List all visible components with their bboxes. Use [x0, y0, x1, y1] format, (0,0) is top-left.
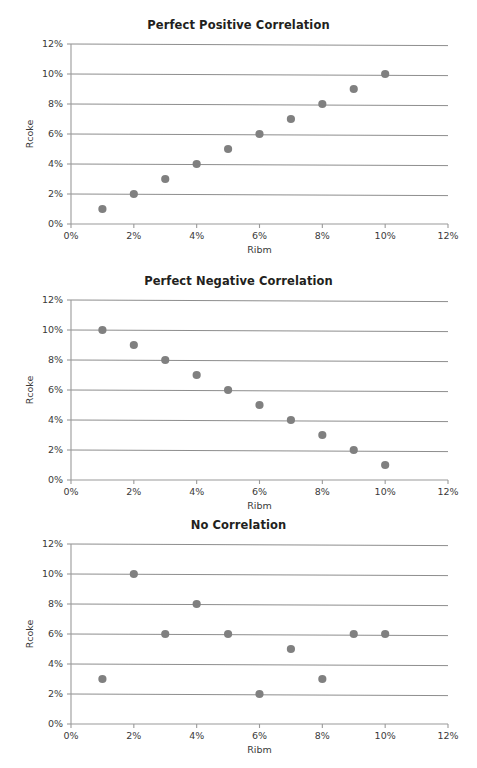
x-tick-label: 2% [126, 230, 141, 241]
y-tick-label: 6% [48, 628, 63, 639]
data-point [161, 175, 169, 183]
y-tick-label: 2% [48, 188, 63, 199]
data-point [287, 416, 295, 424]
y-axis-title: Rcoke [24, 120, 35, 149]
y-axis-title: Rcoke [24, 376, 35, 405]
data-point [130, 190, 138, 198]
data-point [318, 100, 326, 108]
x-tick-label: 12% [437, 230, 458, 241]
data-point [255, 130, 263, 138]
plot-svg: 0%2%4%6%8%10%12%0%2%4%6%8%10%12%RibmRcok… [0, 256, 477, 512]
y-tick-label: 6% [48, 384, 63, 395]
x-tick-label: 4% [189, 730, 204, 741]
x-tick-label: 12% [437, 730, 458, 741]
data-point [130, 570, 138, 578]
gridline-horizontal [71, 300, 448, 302]
y-tick-label: 2% [48, 444, 63, 455]
gridline-horizontal [71, 634, 448, 636]
y-tick-label: 4% [48, 158, 63, 169]
data-point [287, 115, 295, 123]
y-tick-label: 10% [42, 68, 63, 79]
data-point [193, 600, 201, 608]
y-tick-label: 6% [48, 128, 63, 139]
data-point [130, 341, 138, 349]
gridline-horizontal [71, 390, 448, 392]
y-tick-label: 0% [48, 718, 63, 729]
data-point [287, 645, 295, 653]
gridline-horizontal [71, 360, 448, 362]
gridline-horizontal [71, 194, 448, 196]
scatter-chart-perfect-negative: Perfect Negative Correlation 0%2%4%6%8%1… [0, 256, 477, 512]
gridline-horizontal [71, 574, 448, 576]
data-point [350, 630, 358, 638]
data-point [381, 630, 389, 638]
y-tick-label: 12% [42, 294, 63, 305]
x-tick-label: 6% [252, 486, 267, 497]
x-tick-label: 2% [126, 730, 141, 741]
data-point [161, 630, 169, 638]
data-point [255, 401, 263, 409]
x-tick-label: 12% [437, 486, 458, 497]
y-tick-label: 10% [42, 568, 63, 579]
x-tick-label: 0% [63, 230, 78, 241]
data-point [224, 386, 232, 394]
gridline-horizontal [71, 164, 448, 166]
gridline-horizontal [71, 420, 448, 422]
y-tick-label: 4% [48, 414, 63, 425]
data-point [98, 675, 106, 683]
gridline-horizontal [71, 450, 448, 452]
y-axis-title: Rcoke [24, 620, 35, 649]
data-point [381, 461, 389, 469]
data-point [98, 205, 106, 213]
data-point [381, 70, 389, 78]
data-point [193, 371, 201, 379]
scatter-chart-no-correlation: No Correlation 0%2%4%6%8%10%12%0%2%4%6%8… [0, 500, 477, 756]
x-axis-title: Ribm [247, 744, 272, 755]
y-tick-label: 8% [48, 354, 63, 365]
x-tick-label: 6% [252, 230, 267, 241]
data-point [161, 356, 169, 364]
x-tick-label: 10% [375, 230, 396, 241]
x-tick-label: 10% [375, 730, 396, 741]
gridline-horizontal [71, 74, 448, 76]
y-tick-label: 12% [42, 538, 63, 549]
gridline-horizontal [71, 544, 448, 546]
figure-page: Perfect Positive Correlation 0%2%4%6%8%1… [0, 0, 477, 768]
y-tick-label: 0% [48, 218, 63, 229]
x-tick-label: 8% [315, 730, 330, 741]
x-tick-label: 8% [315, 486, 330, 497]
x-tick-label: 4% [189, 230, 204, 241]
y-tick-label: 2% [48, 688, 63, 699]
data-point [318, 431, 326, 439]
data-point [193, 160, 201, 168]
y-tick-label: 8% [48, 598, 63, 609]
y-tick-label: 0% [48, 474, 63, 485]
y-tick-label: 10% [42, 324, 63, 335]
x-tick-label: 0% [63, 730, 78, 741]
x-axis-title: Ribm [247, 244, 272, 255]
data-point [350, 85, 358, 93]
data-point [224, 630, 232, 638]
x-tick-label: 4% [189, 486, 204, 497]
data-point [350, 446, 358, 454]
scatter-chart-perfect-positive: Perfect Positive Correlation 0%2%4%6%8%1… [0, 0, 477, 256]
data-point [224, 145, 232, 153]
x-tick-label: 2% [126, 486, 141, 497]
gridline-horizontal [71, 104, 448, 106]
plot-svg: 0%2%4%6%8%10%12%0%2%4%6%8%10%12%RibmRcok… [0, 0, 477, 256]
gridline-horizontal [71, 44, 448, 46]
y-tick-label: 8% [48, 98, 63, 109]
data-point [318, 675, 326, 683]
data-point [255, 690, 263, 698]
gridline-horizontal [71, 604, 448, 606]
y-tick-label: 12% [42, 38, 63, 49]
gridline-horizontal [71, 664, 448, 666]
plot-svg: 0%2%4%6%8%10%12%0%2%4%6%8%10%12%RibmRcok… [0, 500, 477, 756]
x-tick-label: 6% [252, 730, 267, 741]
gridline-horizontal [71, 330, 448, 332]
y-tick-label: 4% [48, 658, 63, 669]
x-tick-label: 8% [315, 230, 330, 241]
data-point [98, 326, 106, 334]
x-tick-label: 10% [375, 486, 396, 497]
x-tick-label: 0% [63, 486, 78, 497]
